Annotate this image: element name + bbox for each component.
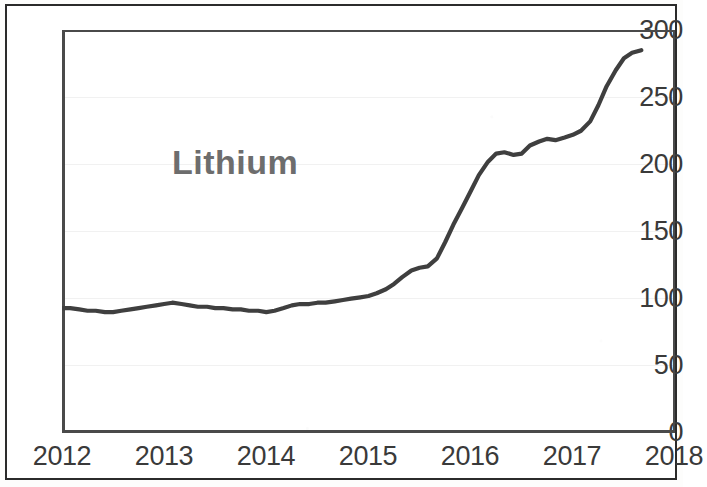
x-axis-tick-2015: 2015 [323,443,413,470]
x-axis-tick-2016: 2016 [425,443,515,470]
x-axis-tick-2018: 2018 [629,443,707,470]
x-axis-tick-2012: 2012 [17,443,107,470]
x-axis-tick-2017: 2017 [527,443,617,470]
series-lithium [62,30,675,433]
x-axis-tick-2013: 2013 [119,443,209,470]
x-axis-tick-2014: 2014 [221,443,311,470]
